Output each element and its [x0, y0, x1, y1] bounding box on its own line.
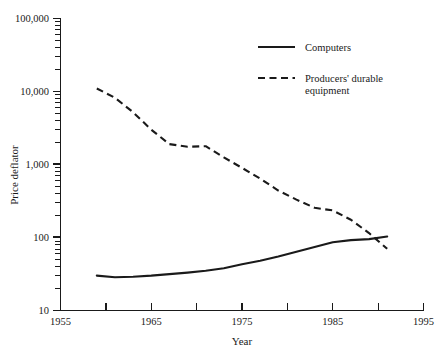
- legend-label-producers-durable-equipment-line2: equipment: [305, 85, 349, 96]
- x-tick-label-1995: 1995: [413, 316, 434, 327]
- y-tick-label-100000: 100,000: [15, 13, 49, 24]
- series-line-computers: [97, 237, 387, 278]
- x-axis-title: Year: [232, 335, 253, 347]
- series-line-producers-durable-equipment: [97, 88, 387, 248]
- x-tick-label-1965: 1965: [141, 316, 162, 327]
- x-tick-label-1985: 1985: [322, 316, 343, 327]
- y-tick-label-1000: 1,000: [25, 159, 49, 170]
- chart-figure: 100,000 10,000 1,000 100 10 1955 1965 19…: [0, 0, 440, 357]
- y-axis-title: Price deflator: [8, 145, 20, 205]
- y-tick-label-100: 100: [33, 232, 49, 243]
- y-tick-label-10: 10: [39, 305, 50, 316]
- line-chart-svg: 100,000 10,000 1,000 100 10 1955 1965 19…: [0, 0, 440, 357]
- x-tick-label-1975: 1975: [232, 316, 253, 327]
- y-axis-minor-ticks: [55, 22, 61, 289]
- y-tick-label-10000: 10,000: [20, 86, 49, 97]
- legend-label-computers: Computers: [305, 42, 351, 53]
- legend-label-producers-durable-equipment: Producers' durable: [305, 73, 383, 84]
- x-axis-ticks: [61, 303, 424, 311]
- x-tick-label-1955: 1955: [50, 316, 71, 327]
- chart-legend: Computers Producers' durable equipment: [258, 42, 383, 96]
